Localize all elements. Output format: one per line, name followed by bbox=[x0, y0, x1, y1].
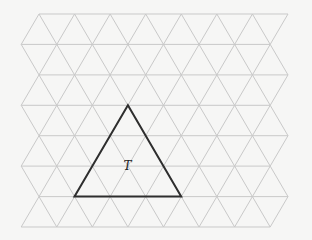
grid-line bbox=[217, 105, 235, 135]
grid-line bbox=[39, 14, 57, 44]
grid-line bbox=[252, 197, 270, 227]
grid-line bbox=[163, 136, 181, 166]
triangle-label: T bbox=[123, 159, 132, 173]
grid-line bbox=[199, 197, 217, 227]
highlighted-triangle-t bbox=[75, 105, 182, 196]
grid-line bbox=[21, 166, 39, 197]
grid-line bbox=[128, 14, 146, 44]
grid-line bbox=[57, 75, 75, 105]
grid-line bbox=[21, 75, 39, 105]
grid-line bbox=[217, 75, 235, 105]
grid-line bbox=[57, 105, 75, 135]
grid-line bbox=[146, 105, 164, 135]
grid-line bbox=[235, 14, 253, 44]
grid-line bbox=[252, 105, 270, 135]
grid-line bbox=[270, 14, 288, 44]
grid-line bbox=[270, 197, 288, 227]
grid-line bbox=[92, 75, 110, 105]
grid-line bbox=[163, 44, 181, 75]
grid-line bbox=[57, 136, 75, 166]
grid-line bbox=[75, 197, 93, 227]
grid-line bbox=[199, 166, 217, 197]
grid-line bbox=[252, 166, 270, 197]
grid-line bbox=[217, 44, 235, 75]
grid-line bbox=[146, 44, 164, 75]
grid-line bbox=[163, 197, 181, 227]
grid-line bbox=[110, 14, 128, 44]
grid-line bbox=[181, 166, 199, 197]
grid-line bbox=[235, 44, 253, 75]
grid-line bbox=[39, 197, 57, 227]
grid-line bbox=[21, 105, 39, 135]
grid-line bbox=[110, 75, 128, 105]
grid-line bbox=[128, 44, 146, 75]
grid-line bbox=[270, 44, 288, 75]
grid-line bbox=[270, 75, 288, 105]
grid-line bbox=[128, 75, 146, 105]
grid-line bbox=[217, 136, 235, 166]
grid-line bbox=[75, 136, 93, 166]
grid-line bbox=[92, 105, 110, 135]
grid-line bbox=[181, 44, 199, 75]
grid-line bbox=[146, 197, 164, 227]
grid-line bbox=[75, 14, 93, 44]
grid-line bbox=[199, 136, 217, 166]
grid-line bbox=[110, 44, 128, 75]
grid-line bbox=[235, 136, 253, 166]
grid-line bbox=[199, 44, 217, 75]
grid-line bbox=[146, 75, 164, 105]
grid-line bbox=[39, 44, 57, 75]
grid-line bbox=[199, 105, 217, 135]
grid-line bbox=[75, 75, 93, 105]
grid-line bbox=[235, 105, 253, 135]
grid-line bbox=[39, 105, 57, 135]
grid-line bbox=[163, 75, 181, 105]
triangular-grid-diagram: T bbox=[0, 0, 312, 240]
grid-line bbox=[163, 105, 181, 135]
grid-line bbox=[252, 44, 270, 75]
grid-line bbox=[75, 44, 93, 75]
grid-line bbox=[39, 75, 57, 105]
grid-line bbox=[57, 197, 75, 227]
grid-line bbox=[39, 166, 57, 197]
grid-line bbox=[252, 75, 270, 105]
grid-line bbox=[252, 136, 270, 166]
grid-line bbox=[270, 166, 288, 197]
grid-line bbox=[217, 197, 235, 227]
grid-line bbox=[217, 166, 235, 197]
grid-line bbox=[181, 75, 199, 105]
grid-line bbox=[270, 105, 288, 135]
grid-line bbox=[21, 197, 39, 227]
grid-line bbox=[217, 14, 235, 44]
grid-line bbox=[181, 136, 199, 166]
grid-line bbox=[92, 197, 110, 227]
grid-line bbox=[21, 136, 39, 166]
grid-line bbox=[75, 105, 93, 135]
grid-line bbox=[92, 44, 110, 75]
grid-line bbox=[181, 197, 199, 227]
grid-line bbox=[146, 166, 164, 197]
grid-line bbox=[39, 136, 57, 166]
grid-line bbox=[110, 197, 128, 227]
grid-line bbox=[92, 166, 110, 197]
grid-line bbox=[181, 14, 199, 44]
grid-line bbox=[252, 14, 270, 44]
grid-line bbox=[163, 14, 181, 44]
grid-line bbox=[235, 166, 253, 197]
grid-line bbox=[181, 105, 199, 135]
grid-line bbox=[57, 166, 75, 197]
grid-line bbox=[146, 14, 164, 44]
grid-line bbox=[235, 75, 253, 105]
grid-line bbox=[128, 197, 146, 227]
grid-line bbox=[270, 136, 288, 166]
grid-line bbox=[57, 44, 75, 75]
triangle-grid-lines bbox=[21, 14, 288, 227]
grid-line bbox=[57, 14, 75, 44]
grid-line bbox=[21, 14, 39, 44]
grid-line bbox=[235, 197, 253, 227]
grid-line bbox=[21, 44, 39, 75]
grid-line bbox=[92, 14, 110, 44]
grid-line bbox=[199, 75, 217, 105]
grid-line bbox=[199, 14, 217, 44]
